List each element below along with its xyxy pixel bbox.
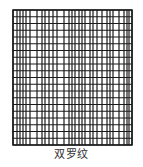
grid-lines xyxy=(13,10,132,145)
knit-pattern-figure: 双罗纹 xyxy=(0,0,143,167)
double-rib-grid-diagram xyxy=(0,0,143,150)
figure-caption: 双罗纹 xyxy=(0,148,143,162)
